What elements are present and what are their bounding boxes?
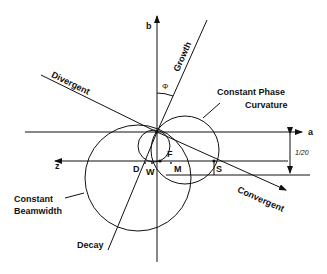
divergent-line <box>41 75 157 132</box>
beamwidth-label-1: Constant <box>14 194 53 204</box>
decay-line <box>108 132 157 250</box>
beamwidth-leader <box>65 193 84 198</box>
point-w <box>151 162 153 164</box>
phase-curvature-label-2: Curvature <box>245 100 288 110</box>
phase-curvature-circle <box>151 116 219 184</box>
point-w-label: W <box>146 167 155 177</box>
point-origin <box>155 130 158 133</box>
point-f-label: F <box>167 149 173 159</box>
point-m <box>170 162 172 164</box>
point-f <box>158 159 161 162</box>
phi-arc <box>157 93 173 96</box>
dimension-label: 1/20 <box>295 148 309 158</box>
small-circle <box>138 130 170 162</box>
point-d-label: D <box>133 164 140 174</box>
point-m-label: M <box>174 164 182 174</box>
decay-label: Decay <box>77 240 104 250</box>
point-s-label: S <box>216 164 222 174</box>
phase-curvature-label-1: Constant Phase <box>217 87 285 97</box>
beamwidth-label-2: Beamwidth <box>14 206 62 216</box>
point-d <box>144 162 146 164</box>
b-axis-label: b <box>146 21 152 31</box>
point-s <box>212 159 215 162</box>
phase-leader <box>203 103 220 118</box>
z-axis-label: z <box>55 161 60 171</box>
growth-line <box>157 20 207 132</box>
phi-label: Φ <box>162 82 168 92</box>
beam-diagram <box>0 0 327 274</box>
a-axis-label: a <box>308 127 313 137</box>
